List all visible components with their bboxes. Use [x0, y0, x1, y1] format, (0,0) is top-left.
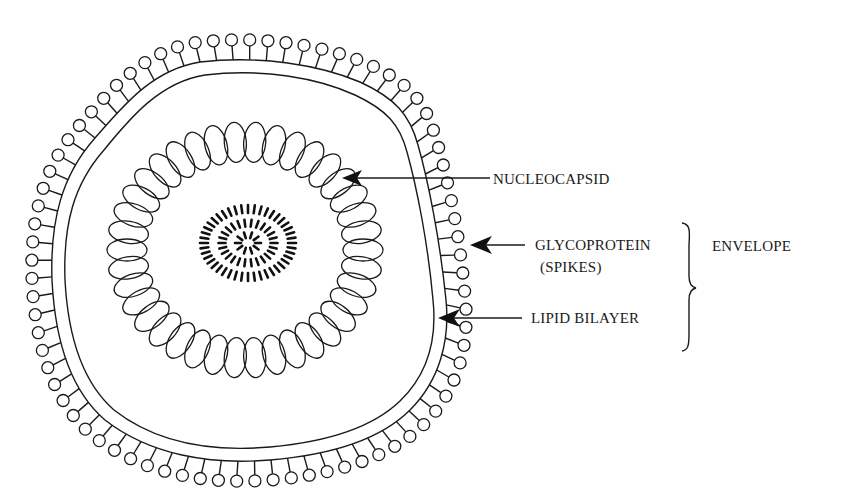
- core-strand: [251, 220, 252, 227]
- spike-stem: [44, 207, 58, 211]
- spike-head: [339, 461, 351, 473]
- spike-head: [37, 182, 49, 194]
- core-strand: [265, 227, 270, 232]
- capsomere: [274, 326, 310, 371]
- spike-head: [124, 67, 136, 79]
- spike-head: [212, 474, 224, 486]
- spike-stem: [39, 243, 53, 244]
- spike-head: [98, 92, 110, 104]
- core-strand: [259, 207, 261, 215]
- spike-stem: [53, 358, 65, 365]
- core-strand: [270, 268, 274, 275]
- label-nucleocapsid: NUCLEOCAPSID: [493, 171, 610, 187]
- spike-stem: [391, 90, 400, 101]
- arrow-glycoprotein: [470, 236, 525, 254]
- spike-head: [316, 43, 328, 55]
- spike-stem: [429, 185, 442, 190]
- spike-stem: [438, 237, 452, 239]
- core-strand: [268, 232, 274, 235]
- arrow-nucleocapsid: [342, 170, 490, 186]
- core-strand: [284, 227, 291, 230]
- core-strand: [202, 252, 210, 254]
- spike-head: [418, 419, 430, 431]
- spike-head: [73, 120, 85, 132]
- spike-stem: [437, 370, 449, 377]
- core-strand: [238, 237, 243, 241]
- spike-head: [262, 35, 274, 47]
- spike-stem: [316, 55, 320, 68]
- spike-stem: [283, 49, 285, 63]
- spike-stem: [403, 103, 413, 113]
- spike-stem: [49, 190, 62, 195]
- spike-stem: [320, 453, 325, 466]
- core-strand: [226, 227, 231, 232]
- spike-head: [244, 34, 256, 46]
- spike-stem: [60, 374, 72, 381]
- core-strand: [208, 259, 215, 263]
- spike-stem: [420, 399, 431, 408]
- core-strand: [286, 232, 294, 234]
- core-strand: [201, 238, 209, 239]
- core-strand: [235, 272, 237, 280]
- spike-head: [159, 465, 171, 477]
- core-strand: [241, 205, 242, 213]
- spike-head: [249, 475, 261, 487]
- core-strand: [270, 247, 277, 249]
- spike-head: [356, 456, 368, 468]
- core-strand: [254, 205, 255, 213]
- capsomere: [258, 123, 289, 167]
- arrow-lipid-bilayer: [438, 309, 522, 327]
- spike-head: [109, 444, 121, 456]
- core-strand: [254, 273, 255, 281]
- core-strand: [219, 237, 226, 239]
- core-strand: [278, 218, 284, 223]
- spike-stem: [180, 53, 184, 66]
- capsomere: [200, 123, 231, 167]
- core-strand: [217, 266, 222, 272]
- spike-stem: [443, 272, 457, 273]
- spike-head: [36, 344, 48, 356]
- spike-stem: [96, 116, 106, 126]
- core-strand: [254, 237, 259, 241]
- core-strand: [212, 263, 218, 268]
- spike-head: [32, 327, 44, 339]
- spike-head: [333, 48, 345, 60]
- spike-stem: [41, 310, 55, 313]
- spike-head: [26, 254, 38, 266]
- core-strand: [244, 259, 245, 266]
- spike-head: [411, 92, 423, 104]
- spike-stem: [78, 402, 89, 411]
- capsomere: [334, 198, 379, 232]
- spike-stem: [38, 277, 52, 278]
- diagram-canvas: NUCLEOCAPSID GLYCOPROTEIN (SPIKES) LIPID…: [0, 0, 856, 498]
- spike-stem: [429, 385, 441, 393]
- spike-head: [176, 469, 188, 481]
- core-strand: [259, 272, 261, 280]
- capsomere: [334, 268, 379, 302]
- spike-stem: [288, 458, 291, 472]
- spike-head: [427, 124, 439, 136]
- capsomere: [111, 268, 156, 302]
- spike-stem: [118, 434, 126, 445]
- capsomere: [160, 137, 200, 183]
- spike-stem: [44, 326, 57, 330]
- spike-head: [285, 472, 297, 484]
- core-strand: [265, 208, 268, 215]
- virus-diagram: NUCLEOCAPSID GLYCOPROTEIN (SPIKES) LIPID…: [0, 0, 856, 498]
- label-glycoprotein: GLYCOPROTEIN: [535, 237, 651, 253]
- core-strand: [238, 246, 243, 250]
- core-strand: [228, 208, 231, 215]
- core-strand: [274, 214, 279, 220]
- spike-head: [459, 285, 471, 297]
- spike-head: [458, 339, 470, 351]
- spike-head: [437, 159, 449, 171]
- nucleic-acid-core: [200, 205, 296, 281]
- spike-stem: [363, 71, 371, 83]
- core-strand: [201, 247, 209, 248]
- core-strand: [251, 259, 252, 266]
- spike-head: [29, 218, 41, 230]
- spike-stem: [68, 389, 79, 397]
- spike-head: [267, 474, 279, 486]
- bilayer-outer-line: [52, 60, 447, 461]
- spike-head: [207, 35, 219, 47]
